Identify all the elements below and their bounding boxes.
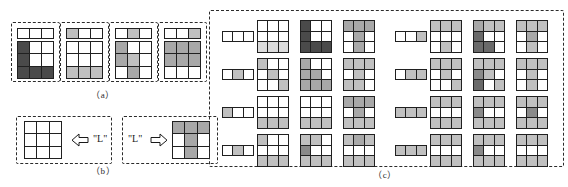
grid-cell bbox=[365, 32, 374, 42]
grid-cell bbox=[42, 54, 53, 65]
block-left-row-2-grid-3 bbox=[343, 58, 375, 91]
grid-cell bbox=[538, 156, 547, 166]
grid-cell bbox=[279, 146, 288, 156]
grid-cell bbox=[344, 80, 353, 90]
grid-cell bbox=[431, 156, 440, 166]
grid-cell bbox=[495, 156, 504, 166]
grid-cell bbox=[495, 42, 504, 52]
grid-cell bbox=[452, 21, 461, 31]
grid-cell bbox=[301, 32, 310, 42]
grid-cell bbox=[30, 67, 41, 78]
grid-cell bbox=[538, 97, 547, 107]
grid-cell bbox=[441, 80, 450, 90]
block-right-row-2-grid-2 bbox=[473, 58, 505, 91]
grid-cell bbox=[527, 146, 536, 156]
grid-cell bbox=[431, 21, 440, 31]
grid-cell bbox=[258, 59, 267, 69]
grid-cell bbox=[67, 54, 78, 65]
grid-cell bbox=[322, 21, 331, 31]
grid-cell bbox=[365, 21, 374, 31]
grid-cell bbox=[25, 147, 36, 158]
grid-cell bbox=[527, 135, 536, 145]
grid-cell bbox=[517, 156, 526, 166]
grid-cell bbox=[431, 135, 440, 145]
grid-cell bbox=[517, 108, 526, 118]
grid-cell bbox=[431, 97, 440, 107]
panel-b: "L""L" （b） bbox=[0, 106, 205, 187]
sample-a-1-grid bbox=[17, 41, 54, 79]
grid-cell bbox=[258, 118, 267, 128]
grid-cell bbox=[527, 118, 536, 128]
figure-root: （a） "L""L" （b） （c） bbox=[0, 0, 568, 187]
grid-cell bbox=[495, 21, 504, 31]
grid-cell bbox=[452, 156, 461, 166]
grid-cell bbox=[322, 42, 331, 52]
grid-cell bbox=[37, 147, 48, 158]
panel-b-caption: （b） bbox=[78, 164, 128, 177]
strip-cell bbox=[18, 29, 29, 38]
grid-cell bbox=[538, 135, 547, 145]
block-left-row-3-grid-3 bbox=[343, 96, 375, 129]
grid-cell bbox=[431, 42, 440, 52]
grid-cell bbox=[495, 146, 504, 156]
grid-cell bbox=[311, 156, 320, 166]
grid-cell bbox=[517, 70, 526, 80]
grid-cell bbox=[258, 135, 267, 145]
grid-cell bbox=[354, 135, 363, 145]
grid-cell bbox=[441, 156, 450, 166]
grid-cell bbox=[344, 118, 353, 128]
grid-cell bbox=[301, 21, 310, 31]
block-left-row-1-strip bbox=[222, 31, 254, 42]
strip-cell bbox=[223, 32, 232, 41]
grid-cell bbox=[50, 147, 61, 158]
grid-cell bbox=[311, 118, 320, 128]
grid-cell bbox=[258, 156, 267, 166]
grid-cell bbox=[128, 42, 139, 53]
grid-cell bbox=[452, 32, 461, 42]
grid-cell bbox=[441, 118, 450, 128]
sample-a-2-strip bbox=[66, 28, 103, 39]
block-right-row-1-grid-2 bbox=[473, 20, 505, 53]
grid-cell bbox=[365, 59, 374, 69]
grid-cell bbox=[484, 59, 493, 69]
grid-cell bbox=[538, 32, 547, 42]
grid-cell bbox=[37, 134, 48, 145]
grid-cell bbox=[128, 67, 139, 78]
grid-cell bbox=[268, 118, 277, 128]
grid-cell bbox=[25, 134, 36, 145]
grid-cell bbox=[173, 122, 184, 133]
block-right-row-1-strip bbox=[395, 31, 427, 42]
grid-cell bbox=[301, 70, 310, 80]
block-right-row-4-grid-3 bbox=[516, 134, 548, 167]
grid-cell bbox=[495, 32, 504, 42]
grid-cell bbox=[441, 42, 450, 52]
grid-cell bbox=[474, 70, 483, 80]
block-right-row-3-grid-3 bbox=[516, 96, 548, 129]
grid-cell bbox=[279, 135, 288, 145]
strip-cell bbox=[79, 29, 90, 38]
grid-cell bbox=[30, 42, 41, 53]
strip-cell bbox=[406, 146, 415, 155]
grid-cell bbox=[354, 156, 363, 166]
block-right-row-1-grid-1 bbox=[430, 20, 462, 53]
grid-cell bbox=[538, 21, 547, 31]
grid-cell bbox=[452, 59, 461, 69]
grid-cell bbox=[311, 108, 320, 118]
block-right-row-4-strip bbox=[395, 145, 427, 156]
grid-cell bbox=[91, 42, 102, 53]
sample-a-3-grid bbox=[115, 41, 152, 79]
grid-cell bbox=[538, 70, 547, 80]
grid-cell bbox=[322, 156, 331, 166]
grid-cell bbox=[484, 97, 493, 107]
grid-cell bbox=[30, 54, 41, 65]
block-left-row-3-strip bbox=[222, 107, 254, 118]
strip-cell bbox=[177, 29, 188, 38]
grid-cell bbox=[517, 118, 526, 128]
grid-cell bbox=[79, 67, 90, 78]
grid-cell bbox=[185, 147, 196, 158]
grid-cell bbox=[322, 118, 331, 128]
panel-a: （a） bbox=[0, 0, 205, 105]
grid-cell bbox=[365, 97, 374, 107]
grid-cell bbox=[301, 156, 310, 166]
strip-cell bbox=[223, 70, 232, 79]
